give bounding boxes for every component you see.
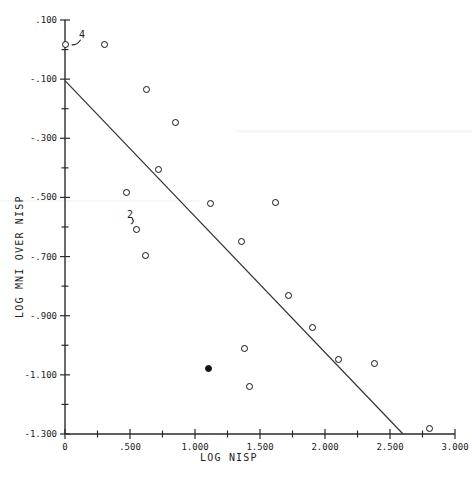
- x-tick-label: 3.000: [430, 443, 472, 452]
- x-axis-title: LOG NISP: [200, 452, 258, 463]
- overlap-count-label: 4: [79, 30, 85, 40]
- data-point: [101, 41, 108, 48]
- regression-line: [65, 81, 403, 434]
- x-tick-label: 2.500: [365, 443, 415, 452]
- data-point: [241, 345, 248, 352]
- scatter-plot-figure: -1.300-1.100-.900-.700-.500-.300-.100.10…: [0, 0, 472, 479]
- y-tick-label: -.300: [7, 134, 57, 143]
- x-tick-label: .500: [105, 443, 155, 452]
- y-axis-title: LOG MNI OVER NISP: [14, 195, 25, 318]
- data-point: [205, 365, 212, 372]
- y-tick-label: -1.300: [7, 430, 57, 439]
- leader-line-4: [72, 40, 81, 45]
- data-point: [335, 356, 342, 363]
- x-tick-label: 1.500: [235, 443, 285, 452]
- y-tick-label: -1.100: [7, 371, 57, 380]
- data-point: [426, 425, 433, 432]
- data-point: [62, 41, 69, 48]
- overlap-count-label: 2: [127, 210, 133, 220]
- y-tick-label: .100: [7, 16, 57, 25]
- data-point: [142, 252, 149, 259]
- plot-canvas: [0, 0, 472, 479]
- x-tick-label: 1.000: [170, 443, 220, 452]
- x-tick-label: 0: [40, 443, 90, 452]
- y-tick-label: -.100: [7, 75, 57, 84]
- data-point: [309, 324, 316, 331]
- data-point: [155, 166, 162, 173]
- x-tick-label: 2.000: [300, 443, 350, 452]
